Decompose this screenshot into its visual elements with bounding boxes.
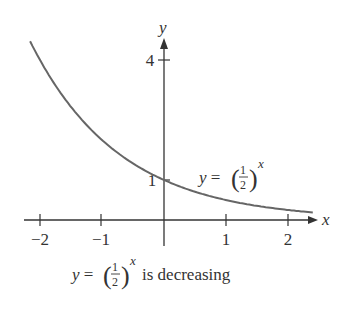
y-tick-label: 4 [146, 51, 155, 70]
svg-text:(: ( [231, 164, 240, 193]
svg-text:1: 1 [240, 163, 246, 177]
svg-text:is decreasing: is decreasing [142, 265, 231, 284]
y-axis-arrow-icon [160, 38, 168, 49]
x-axis-label: x [321, 210, 330, 229]
svg-text:y =: y = [70, 265, 93, 284]
svg-text:): ) [249, 164, 258, 193]
svg-text:2: 2 [112, 275, 118, 289]
svg-text:y =: y = [197, 168, 220, 187]
curve-line [30, 41, 313, 212]
x-tick-label: 1 [222, 230, 231, 249]
x-tick-label: −2 [31, 230, 49, 249]
svg-text:x: x [129, 253, 136, 268]
svg-text:x: x [257, 156, 264, 171]
svg-text:): ) [121, 261, 130, 290]
x-tick-label: 2 [284, 230, 293, 249]
svg-text:2: 2 [240, 178, 246, 192]
caption: y = ( 1 2 ) x is decreasing [70, 253, 231, 290]
chart: x y −2 −1 1 2 4 1 y = ( 1 2 ) x y = ( 1 … [0, 0, 352, 316]
y-axis-label: y [157, 18, 167, 37]
svg-text:(: ( [103, 261, 112, 290]
svg-text:1: 1 [112, 260, 118, 274]
x-tick-label: −1 [92, 230, 110, 249]
curve-label: y = ( 1 2 ) x [197, 156, 264, 193]
x-axis-arrow-icon [308, 216, 318, 224]
